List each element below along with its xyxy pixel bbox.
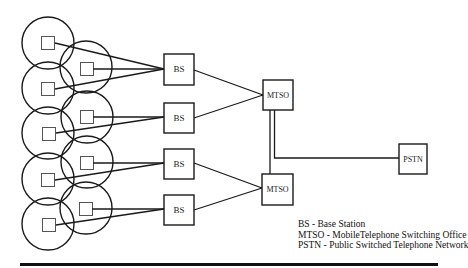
cell-antenna-square [81,111,94,124]
legend: BS - Base Station MTSO - MobileTelephone… [298,219,468,251]
bs-label: BS [173,205,184,215]
pstn-label: PSTN [403,155,423,164]
mtso-label: MTSO [266,185,288,194]
cell-antenna-square [42,37,55,50]
link-line [56,209,164,225]
cell-antenna-square [81,63,94,76]
link-line [55,69,164,89]
cell-antenna-square [80,203,93,216]
bs-label: BS [173,113,184,123]
link-line [194,95,263,118]
link-line [55,163,164,180]
bottom-divider [20,263,438,266]
link-line [194,188,262,210]
cell-antenna-square [43,128,56,141]
cell-antenna-square [81,157,94,170]
link-line [194,70,263,95]
legend-item-pstn: PSTN - Public Switched Telephone Network [298,240,468,251]
bs-label: BS [173,64,184,74]
legend-item-mtso: MTSO - MobileTelephone Switching Office [298,230,468,241]
bs-label: BS [173,159,184,169]
link-line [55,43,164,69]
cell-antenna-square [42,174,55,187]
cell-antenna-square [42,83,55,96]
mtso-label: MTSO [267,91,289,100]
cell-antenna-square [43,219,56,232]
legend-item-bs: BS - Base Station [298,219,468,230]
link-line [275,110,400,158]
link-line [194,163,262,188]
